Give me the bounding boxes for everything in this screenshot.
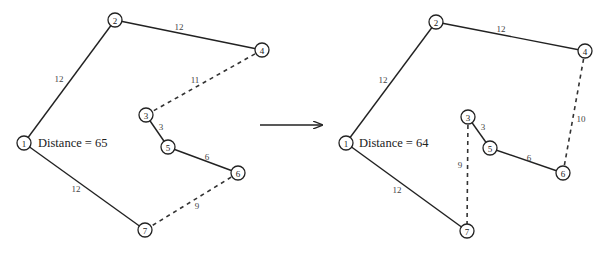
edge-1-2 — [346, 22, 436, 143]
node-label: 4 — [260, 46, 265, 56]
edge-weight-label: 6 — [527, 153, 532, 163]
node-label: 2 — [113, 16, 118, 26]
node-3: 3 — [139, 108, 153, 122]
tour-after-graph: 12121036912 1234567 Distance = 64 — [339, 15, 592, 238]
node-7: 7 — [138, 223, 152, 237]
node-4: 4 — [578, 44, 592, 58]
node-label: 5 — [166, 143, 171, 153]
edge-weight-label: 12 — [175, 22, 184, 32]
node-label: 3 — [466, 113, 471, 123]
node-label: 2 — [434, 18, 439, 28]
nodes-after: 1234567 — [339, 15, 592, 238]
edge-weight-label: 12 — [497, 24, 506, 34]
node-label: 1 — [344, 139, 349, 149]
edge-2-4 — [436, 22, 585, 51]
node-7: 7 — [460, 224, 474, 238]
distance-label-after: Distance = 64 — [359, 136, 429, 150]
node-label: 5 — [488, 144, 493, 154]
edge-weight-label: 3 — [159, 122, 164, 132]
edge-weight-label: 12 — [72, 184, 81, 194]
edge-weight-label: 9 — [195, 201, 200, 211]
edge-5-6 — [168, 147, 238, 173]
edge-weight-label: 12 — [55, 74, 64, 84]
node-6: 6 — [231, 166, 245, 180]
node-2: 2 — [108, 13, 122, 27]
node-label: 7 — [465, 227, 470, 237]
edge-weight-label: 11 — [191, 75, 200, 85]
node-5: 5 — [161, 140, 175, 154]
node-label: 6 — [236, 169, 241, 179]
edge-4-3 — [146, 50, 262, 115]
node-label: 3 — [144, 111, 149, 121]
node-label: 6 — [561, 169, 566, 179]
edge-3-7 — [467, 117, 468, 231]
node-2: 2 — [429, 15, 443, 29]
node-label: 1 — [22, 139, 27, 149]
node-label: 7 — [143, 226, 148, 236]
edge-2-4 — [115, 20, 262, 50]
edge-weight-label: 12 — [393, 185, 402, 195]
distance-label-before: Distance = 65 — [38, 136, 108, 150]
edges-after — [346, 22, 585, 231]
node-6: 6 — [556, 166, 570, 180]
edge-labels-after: 12121036912 — [379, 24, 587, 195]
edge-7-1 — [346, 143, 467, 231]
edge-weight-label: 9 — [458, 160, 463, 170]
node-1: 1 — [339, 136, 353, 150]
edge-weight-label: 6 — [205, 152, 210, 162]
edge-6-7 — [145, 173, 238, 230]
node-5: 5 — [483, 141, 497, 155]
edge-1-2 — [24, 20, 115, 143]
edge-4-6 — [563, 51, 585, 173]
tour-before-graph: 12121136912 1234567 Distance = 65 — [17, 13, 269, 237]
edge-labels-before: 12121136912 — [55, 22, 210, 211]
node-1: 1 — [17, 136, 31, 150]
node-3: 3 — [461, 110, 475, 124]
edge-7-1 — [24, 143, 145, 230]
edge-weight-label: 12 — [379, 75, 388, 85]
node-4: 4 — [255, 43, 269, 57]
tour-diagram: 12121136912 1234567 Distance = 65 121210… — [0, 0, 605, 253]
edge-weight-label: 10 — [577, 114, 587, 124]
edges-before — [24, 20, 262, 230]
edge-weight-label: 3 — [481, 122, 486, 132]
nodes-before: 1234567 — [17, 13, 269, 237]
node-label: 4 — [583, 47, 588, 57]
